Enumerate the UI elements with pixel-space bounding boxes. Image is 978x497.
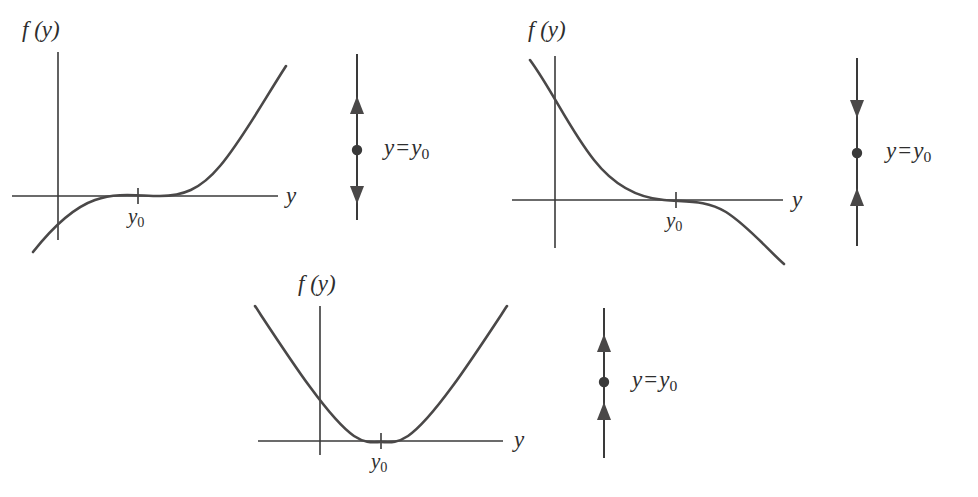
phase-line-unstable: y=y0: [330, 0, 500, 260]
arrow-up-icon-lower: [597, 402, 611, 420]
phase-line-semistable: y=y0: [580, 290, 760, 497]
phase-label-equilibrium: y=y0: [632, 368, 677, 394]
arrow-down-icon: [350, 186, 364, 204]
stability-figure: f (y) y y0 y=y0 f (y): [0, 0, 978, 497]
equilibrium-dot: [599, 377, 609, 387]
axis-label-y: y: [792, 188, 802, 211]
curve-increasing-cubic: [33, 66, 286, 252]
axis-label-fy: f (y): [528, 18, 566, 41]
axis-label-fy: f (y): [298, 272, 336, 295]
phase-line-stable: y=y0: [830, 0, 978, 265]
phase-label-equilibrium: y=y0: [384, 136, 429, 162]
arrow-up-icon: [597, 334, 611, 352]
arrow-up-icon: [350, 96, 364, 114]
curve-parabola: [255, 306, 507, 442]
equilibrium-dot: [852, 148, 862, 158]
curve-decreasing-cubic: [530, 60, 784, 264]
arrow-down-icon: [850, 100, 864, 118]
panel-unstable: f (y) y y0: [0, 0, 330, 260]
arrow-up-icon: [850, 188, 864, 206]
axis-label-fy: f (y): [22, 18, 60, 41]
axis-label-y: y: [286, 184, 296, 207]
phase-line-graphic-unstable: [330, 0, 500, 260]
phase-line-graphic-stable: [830, 0, 978, 265]
tick-label-y0: y0: [128, 206, 144, 229]
panel-semistable: f (y) y y0: [250, 260, 580, 497]
axis-label-y: y: [514, 428, 524, 451]
tick-label-y0: y0: [371, 451, 387, 474]
panel-stable: f (y) y y0: [500, 0, 830, 265]
tick-label-y0: y0: [666, 210, 682, 233]
phase-label-equilibrium: y=y0: [886, 139, 931, 165]
equilibrium-dot: [352, 145, 362, 155]
